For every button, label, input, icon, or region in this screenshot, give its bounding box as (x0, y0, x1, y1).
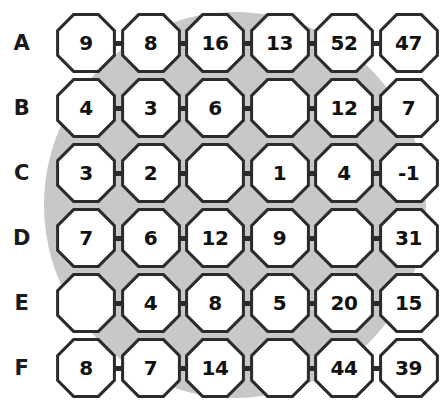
octagon-icon (379, 143, 439, 203)
octagon-icon (250, 208, 310, 268)
octagon-icon (121, 338, 181, 398)
octagon-icon (121, 13, 181, 73)
octagon-cell[interactable]: 13 (250, 13, 310, 73)
octagon-cell[interactable]: 44 (314, 338, 374, 398)
octagon-cell[interactable]: 14 (185, 338, 245, 398)
octagon-icon (250, 338, 310, 398)
octagon-cell[interactable]: 3 (56, 143, 116, 203)
octagon-icon (379, 208, 439, 268)
octagon-cell[interactable]: 9 (56, 13, 116, 73)
octagon-puzzle-figure: A9816135247B436127C3214-1D7612931E485201… (0, 0, 442, 411)
octagon-cell[interactable]: 39 (379, 338, 439, 398)
octagon-icon (56, 273, 116, 333)
octagon-cell[interactable]: 20 (314, 273, 374, 333)
row-label-c: C (8, 143, 36, 203)
octagon-icon (185, 208, 245, 268)
octagon-cell[interactable]: 7 (379, 78, 439, 138)
octagon-icon (56, 78, 116, 138)
grid-row: F87144439 (0, 338, 442, 398)
octagon-icon (56, 13, 116, 73)
octagon-cell[interactable]: 12 (185, 208, 245, 268)
octagon-icon (379, 273, 439, 333)
octagon-cell[interactable]: 8 (185, 273, 245, 333)
octagon-icon (56, 208, 116, 268)
octagon-cell[interactable]: 47 (379, 13, 439, 73)
octagon-icon (185, 273, 245, 333)
row-label-a: A (8, 13, 36, 73)
octagon-cell-blank[interactable] (250, 338, 310, 398)
octagon-cell-blank[interactable] (185, 143, 245, 203)
octagon-cell[interactable]: 52 (314, 13, 374, 73)
octagon-icon (250, 273, 310, 333)
octagon-icon (314, 338, 374, 398)
octagon-icon (250, 78, 310, 138)
octagon-icon (56, 338, 116, 398)
grid-row: E4852015 (0, 273, 442, 333)
octagon-cell-blank[interactable] (56, 273, 116, 333)
octagon-cell[interactable]: 4 (314, 143, 374, 203)
octagon-icon (314, 143, 374, 203)
octagon-cell[interactable]: 6 (185, 78, 245, 138)
octagon-icon (121, 143, 181, 203)
row-label-b: B (8, 78, 36, 138)
grid-row: B436127 (0, 78, 442, 138)
octagon-cell[interactable]: 4 (56, 78, 116, 138)
octagon-cell[interactable]: 3 (121, 78, 181, 138)
grid-row: D7612931 (0, 208, 442, 268)
octagon-cell[interactable]: 7 (121, 338, 181, 398)
octagon-cell[interactable]: 6 (121, 208, 181, 268)
octagon-cell[interactable]: 31 (379, 208, 439, 268)
octagon-icon (314, 273, 374, 333)
octagon-cell[interactable]: 5 (250, 273, 310, 333)
octagon-icon (185, 338, 245, 398)
octagon-cell[interactable]: 12 (314, 78, 374, 138)
octagon-cell[interactable]: 15 (379, 273, 439, 333)
octagon-icon (379, 13, 439, 73)
octagon-icon (379, 78, 439, 138)
octagon-icon (121, 208, 181, 268)
octagon-icon (314, 78, 374, 138)
octagon-grid: A9816135247B436127C3214-1D7612931E485201… (0, 0, 442, 411)
row-label-d: D (8, 208, 36, 268)
octagon-cell[interactable]: 2 (121, 143, 181, 203)
row-label-f: F (8, 338, 36, 398)
octagon-cell[interactable]: 8 (56, 338, 116, 398)
octagon-cell[interactable]: 4 (121, 273, 181, 333)
octagon-cell[interactable]: 7 (56, 208, 116, 268)
octagon-icon (250, 143, 310, 203)
octagon-icon (379, 338, 439, 398)
octagon-icon (185, 13, 245, 73)
octagon-cell[interactable]: 16 (185, 13, 245, 73)
octagon-icon (314, 208, 374, 268)
row-label-e: E (8, 273, 36, 333)
grid-row: C3214-1 (0, 143, 442, 203)
octagon-cell[interactable]: 9 (250, 208, 310, 268)
octagon-icon (121, 273, 181, 333)
octagon-icon (185, 143, 245, 203)
octagon-cell[interactable]: 8 (121, 13, 181, 73)
octagon-cell-blank[interactable] (250, 78, 310, 138)
octagon-icon (185, 78, 245, 138)
octagon-icon (121, 78, 181, 138)
octagon-cell[interactable]: 1 (250, 143, 310, 203)
octagon-cell[interactable]: -1 (379, 143, 439, 203)
octagon-icon (56, 143, 116, 203)
octagon-cell-blank[interactable] (314, 208, 374, 268)
octagon-icon (250, 13, 310, 73)
grid-row: A9816135247 (0, 13, 442, 73)
octagon-icon (314, 13, 374, 73)
